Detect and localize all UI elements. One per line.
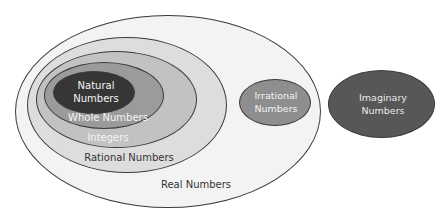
integers-label: Integers — [87, 132, 128, 144]
irrational-label-line2: Numbers — [254, 102, 297, 115]
number-sets-diagram: Natural Numbers Whole Numbers Integers R… — [0, 0, 448, 218]
rational-numbers-label: Rational Numbers — [84, 152, 173, 164]
irrational-numbers-label: Irrational Numbers — [254, 89, 297, 115]
natural-label-line1: Natural — [73, 79, 118, 92]
imaginary-label-line2: Numbers — [359, 104, 407, 117]
natural-numbers-label: Natural Numbers — [73, 79, 118, 105]
whole-numbers-label: Whole Numbers — [68, 112, 148, 124]
imaginary-numbers-label: Imaginary Numbers — [359, 91, 407, 117]
real-numbers-label: Real Numbers — [161, 179, 231, 191]
imaginary-label-line1: Imaginary — [359, 91, 407, 104]
natural-label-line2: Numbers — [73, 92, 118, 105]
irrational-label-line1: Irrational — [254, 89, 297, 102]
